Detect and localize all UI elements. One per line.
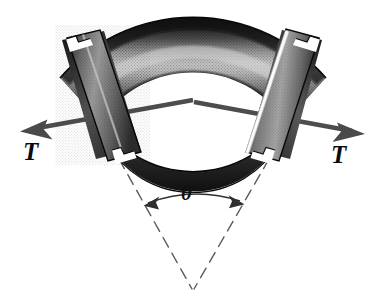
tension-arrow-left-head xyxy=(20,120,53,140)
bend-angle-label: θ xyxy=(181,183,192,204)
flange-left xyxy=(55,25,150,165)
pipe-elbow-figure: T T θ xyxy=(0,0,384,308)
bend-angle-arc-path xyxy=(148,194,240,203)
tension-arrow-right-head xyxy=(333,123,366,143)
tension-label-left: T xyxy=(23,139,38,164)
figure-canvas xyxy=(0,0,384,308)
bend-angle-arc xyxy=(144,194,245,210)
tension-label-right: T xyxy=(331,142,346,167)
